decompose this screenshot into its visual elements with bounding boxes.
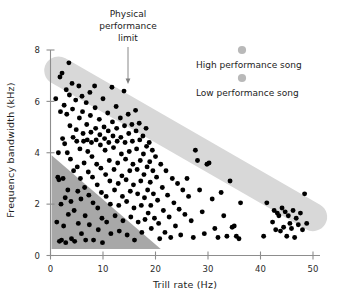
- data-point: [132, 238, 137, 243]
- data-point: [122, 89, 127, 94]
- data-point: [152, 216, 157, 221]
- data-point: [74, 127, 79, 132]
- data-point: [126, 112, 131, 117]
- data-point: [186, 194, 191, 199]
- data-point: [146, 211, 151, 216]
- data-point: [278, 229, 283, 234]
- data-point: [71, 168, 76, 173]
- data-point: [95, 182, 100, 187]
- data-point: [141, 152, 146, 157]
- data-point: [63, 195, 68, 200]
- data-point: [88, 130, 93, 135]
- data-point: [67, 123, 72, 128]
- data-point: [61, 224, 66, 229]
- data-point: [60, 71, 65, 76]
- x-tick-label: 0: [48, 264, 53, 274]
- data-point: [53, 96, 58, 101]
- data-point: [87, 222, 92, 227]
- low-performance-region: [52, 155, 161, 249]
- data-point: [90, 154, 95, 159]
- legend: High performance song Low performance so…: [196, 46, 302, 98]
- data-point: [281, 225, 286, 230]
- data-point: [135, 167, 140, 172]
- data-point: [296, 222, 301, 227]
- data-point: [94, 162, 99, 167]
- data-point: [129, 122, 134, 127]
- y-tick-label: 8: [35, 45, 40, 55]
- data-point: [62, 103, 67, 108]
- data-point: [64, 112, 69, 117]
- y-tick-label: 4: [35, 148, 40, 158]
- data-point: [136, 220, 141, 225]
- data-point: [298, 211, 303, 216]
- data-point: [79, 231, 84, 236]
- data-point: [120, 194, 125, 199]
- data-point: [283, 209, 288, 214]
- data-point: [115, 161, 120, 166]
- data-point: [96, 227, 101, 232]
- data-point: [140, 134, 145, 139]
- data-point: [138, 179, 143, 184]
- data-point: [112, 188, 117, 193]
- data-point: [171, 200, 176, 205]
- data-point: [137, 121, 142, 126]
- data-point: [113, 213, 118, 218]
- data-point: [86, 193, 91, 198]
- x-tick-label: 20: [150, 264, 161, 274]
- data-point: [157, 236, 162, 241]
- data-point: [142, 172, 147, 177]
- data-point: [83, 238, 88, 243]
- data-point: [280, 206, 285, 211]
- data-point: [98, 166, 103, 171]
- data-point: [95, 206, 100, 211]
- data-point: [126, 131, 131, 136]
- data-point: [300, 227, 305, 232]
- data-point: [294, 216, 299, 221]
- data-point: [216, 235, 221, 240]
- data-point: [133, 108, 138, 113]
- data-point: [237, 236, 242, 241]
- data-point: [88, 113, 93, 118]
- data-point: [63, 240, 68, 245]
- data-point: [81, 131, 86, 136]
- x-tick-group: 01020304050: [48, 252, 319, 275]
- data-point: [100, 240, 105, 245]
- data-point: [302, 191, 307, 196]
- data-point: [109, 85, 114, 90]
- data-point: [112, 167, 117, 172]
- data-point: [106, 128, 111, 133]
- data-point: [73, 98, 78, 103]
- chart-figure: 02468 01020304050 Trill rate (Hz) Freque…: [0, 0, 344, 303]
- data-point: [145, 164, 150, 169]
- data-point: [94, 137, 99, 142]
- data-point: [221, 213, 226, 218]
- data-point: [163, 230, 168, 235]
- data-point: [114, 126, 119, 131]
- y-tick-label: 6: [35, 97, 40, 107]
- data-point: [62, 141, 67, 146]
- annotation-line-1: Physical: [110, 9, 147, 19]
- data-point: [304, 221, 309, 226]
- data-point: [270, 220, 275, 225]
- data-point: [158, 162, 163, 167]
- data-point: [79, 197, 84, 202]
- data-point: [116, 181, 121, 186]
- data-point: [291, 208, 296, 213]
- data-point: [178, 233, 183, 238]
- data-point: [85, 137, 90, 142]
- data-point: [54, 220, 59, 225]
- data-point: [151, 191, 156, 196]
- data-point: [56, 177, 61, 182]
- data-point: [212, 226, 217, 231]
- data-point: [103, 148, 108, 153]
- data-point: [135, 191, 140, 196]
- data-point: [142, 195, 147, 200]
- data-point: [87, 90, 92, 95]
- data-point: [185, 176, 190, 181]
- data-point: [153, 154, 158, 159]
- data-point: [177, 207, 182, 212]
- data-point: [61, 176, 66, 181]
- data-point: [97, 117, 102, 122]
- physical-performance-limit-annotation: Physical performance limit: [99, 9, 157, 84]
- data-point: [74, 139, 79, 144]
